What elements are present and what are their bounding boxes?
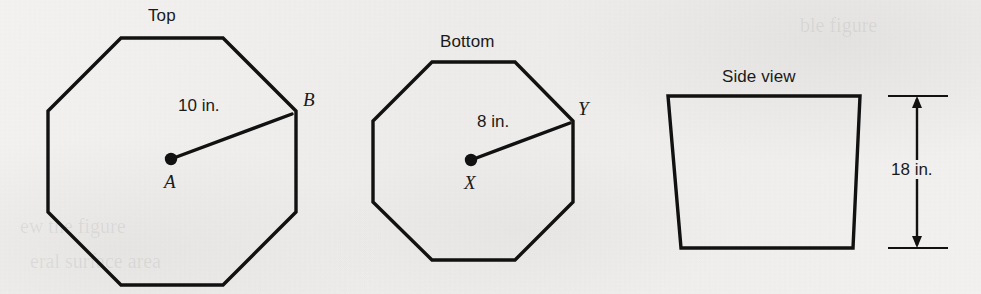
bottom-view-center-label: X <box>464 173 476 192</box>
side-view-trapezoid <box>668 96 860 248</box>
dimension-arrow-up <box>912 96 922 108</box>
side-view-dimension-label: 18 in. <box>890 160 934 179</box>
top-view-center-label: A <box>164 172 176 191</box>
side-view-title: Side view <box>722 68 796 85</box>
top-view-center-point <box>165 153 177 165</box>
dimension-arrow-down <box>912 236 922 248</box>
top-view-radius-label: 10 in. <box>178 97 220 114</box>
bottom-view-title: Bottom <box>440 33 494 50</box>
top-view-radius <box>171 114 292 159</box>
bottom-view-radius-label: 8 in. <box>477 113 509 130</box>
geometry-figure: ble figure ew the figure eral surface ar… <box>0 0 981 294</box>
top-view-title: Top <box>148 7 176 24</box>
top-view-vertex-label: B <box>303 90 315 109</box>
bottom-view-center-point <box>465 154 477 166</box>
bottom-view-vertex-label: Y <box>578 99 589 118</box>
